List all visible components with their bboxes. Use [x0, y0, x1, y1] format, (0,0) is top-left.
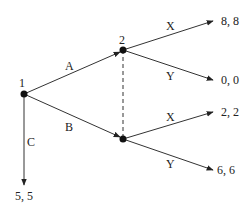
payoff-t2: 0, 0 [221, 73, 239, 87]
action-label-X-upper: X [166, 19, 175, 33]
game-tree-svg: 1 2 A B C X Y X Y 8, 8 0, 0 2, 2 6, 6 5,… [0, 0, 249, 210]
player-1-label: 1 [19, 76, 25, 90]
action-label-B: B [65, 120, 73, 134]
action-label-Y-lower: Y [166, 157, 175, 171]
payoff-t3: 2, 2 [221, 105, 239, 119]
game-tree-diagram: 1 2 A B C X Y X Y 8, 8 0, 0 2, 2 6, 6 5,… [0, 0, 249, 210]
action-label-C: C [27, 135, 35, 149]
action-label-A: A [65, 59, 74, 73]
payoff-tc: 5, 5 [15, 189, 33, 203]
payoff-t1: 8, 8 [221, 14, 239, 28]
decision-node-3 [120, 136, 127, 143]
decision-node-2 [120, 47, 127, 54]
player-2-label: 2 [119, 33, 125, 47]
action-label-X-lower: X [166, 110, 175, 124]
decision-node-1 [21, 91, 28, 98]
payoff-t4: 6, 6 [217, 163, 235, 177]
action-label-Y-upper: Y [166, 69, 175, 83]
